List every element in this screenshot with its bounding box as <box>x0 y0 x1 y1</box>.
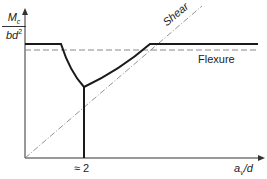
flexure-label: Flexure <box>198 54 235 65</box>
x-axis-label: av/d <box>234 163 253 176</box>
x-tick-label: ≈ 2 <box>74 163 89 174</box>
y-axis-label: Mc bd2 <box>2 12 26 41</box>
y-label-sub: c <box>17 18 21 25</box>
shear-line <box>25 6 202 158</box>
y-label-sup: 2 <box>18 28 22 35</box>
x-label-rest: /d <box>244 162 253 174</box>
y-label-numerator: M <box>8 11 17 23</box>
diagram-canvas <box>0 0 267 179</box>
y-label-denominator: bd <box>6 29 18 41</box>
